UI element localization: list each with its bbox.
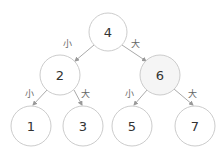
edge-arrow-icon [134, 90, 147, 105]
tree-node-3: 3 [63, 106, 103, 146]
edge-label: 小 [25, 89, 34, 99]
tree-node-4: 4 [89, 13, 127, 51]
tree-node-6: 6 [140, 55, 180, 95]
edge-n2-n3: 大 [74, 88, 90, 105]
edge-label: 小 [125, 89, 134, 99]
nodes-layer: 4261357 [11, 13, 215, 146]
edge-n6-n5: 小 [125, 89, 148, 105]
tree-node-5: 5 [112, 106, 152, 146]
tree-node-1: 1 [11, 106, 51, 146]
edge-label: 大 [81, 88, 90, 99]
node-value: 6 [156, 68, 164, 83]
node-value: 7 [191, 119, 199, 134]
edge-arrow-icon [75, 45, 94, 61]
edge-n4-n6: 大 [122, 38, 146, 61]
node-value: 4 [104, 25, 112, 40]
node-value: 2 [56, 68, 64, 83]
edge-label: 小 [63, 39, 72, 49]
edge-n2-n1: 小 [25, 89, 48, 105]
node-value: 1 [27, 119, 35, 134]
edge-n6-n7: 大 [174, 88, 197, 105]
binary-tree-diagram: 小大小大小大 4261357 [0, 0, 224, 161]
node-value: 3 [79, 119, 87, 134]
edge-label: 大 [131, 38, 140, 49]
tree-node-7: 7 [175, 106, 215, 146]
tree-node-2: 2 [40, 55, 80, 95]
edge-label: 大 [188, 88, 197, 99]
edge-arrow-icon [33, 90, 47, 105]
node-value: 5 [128, 119, 136, 134]
